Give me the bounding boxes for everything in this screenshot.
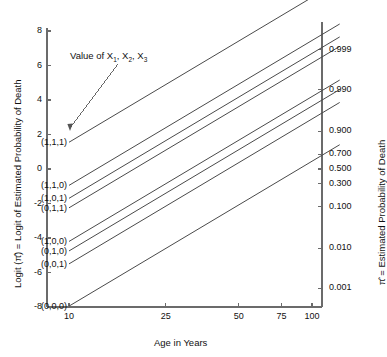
y-axis-label-right-text: π̂ = Estimated Probability of Death bbox=[376, 140, 387, 285]
y-tick-label-right-6: 0.900 bbox=[329, 125, 352, 135]
series-label-(0,1,1): (0,1,1) bbox=[41, 203, 67, 213]
x-tick-label-4: 100 bbox=[304, 311, 319, 321]
x-tick-label-0: 10 bbox=[64, 311, 74, 321]
y-tick-label-right-7: 0.990 bbox=[329, 84, 352, 94]
y-axis-label-left: Logit (π̂) = Logit of Estimated Probabil… bbox=[12, 79, 23, 288]
annotation-arrow-shaft bbox=[70, 64, 118, 128]
series-line-(0,1,0) bbox=[69, 90, 340, 251]
y-axis-label-left-text: Logit (π̂) = Logit of Estimated Probabil… bbox=[12, 79, 23, 288]
y-tick-label-left-8: 8 bbox=[37, 25, 42, 35]
series-label-(1,1,0): (1,1,0) bbox=[41, 180, 67, 190]
y-tick-label-right-2: 0.100 bbox=[329, 201, 352, 211]
series-label-(0,0,1): (0,0,1) bbox=[41, 259, 67, 269]
y-tick-label-left-6: 4 bbox=[37, 94, 42, 104]
y-tick-label-right-1: 0.010 bbox=[329, 242, 352, 252]
x-tick-label-1: 25 bbox=[161, 311, 171, 321]
annotation-lead: Value of X bbox=[70, 50, 113, 61]
x-axis-label: Age in Years bbox=[154, 337, 207, 348]
y-tick-label-right-0: 0.001 bbox=[329, 282, 352, 292]
y-tick-label-right-4: 0.500 bbox=[329, 163, 352, 173]
y-tick-label-left-7: 6 bbox=[37, 60, 42, 70]
series-line-(0,0,0) bbox=[69, 145, 340, 306]
y-tick-label-left-4: 0 bbox=[37, 163, 42, 173]
y-axis-label-right: π̂ = Estimated Probability of Death bbox=[376, 140, 387, 285]
annotation-mid-2: , X bbox=[132, 50, 144, 61]
series-label-(1,0,0): (1,0,0) bbox=[41, 236, 67, 246]
series-layer bbox=[69, 0, 340, 306]
y-tick-label-right-3: 0.300 bbox=[329, 178, 352, 188]
annotation-sub-3: 3 bbox=[144, 56, 148, 63]
x-tick-label-3: 75 bbox=[277, 311, 287, 321]
annotation-value-of-x: Value of X1, X2, X3 bbox=[70, 50, 147, 63]
annotation-mid-1: , X bbox=[117, 50, 129, 61]
annotation-arrow-head bbox=[67, 123, 72, 131]
y-tick-label-right-8: 0.999 bbox=[329, 44, 352, 54]
x-tick-label-2: 50 bbox=[234, 311, 244, 321]
y-tick-label-right-5: 0.700 bbox=[329, 148, 352, 158]
series-label-(1,1,1): (1,1,1) bbox=[41, 137, 67, 147]
series-label-(0,0,0): (0,0,0) bbox=[41, 301, 67, 311]
series-label-(0,1,0): (0,1,0) bbox=[41, 246, 67, 256]
series-label-(1,0,1): (1,0,1) bbox=[41, 193, 67, 203]
